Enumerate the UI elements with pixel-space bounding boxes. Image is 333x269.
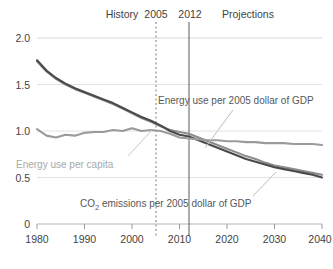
y-tick-0: 0 bbox=[24, 218, 30, 230]
x-tick-2040: 2040 bbox=[308, 233, 332, 245]
co2-suffix: emissions per 2005 dollar of GDP bbox=[99, 198, 252, 209]
chart-container: History 2005 2012 Projections 2.0 1.5 1.… bbox=[0, 0, 333, 269]
line-chart: History 2005 2012 Projections 2.0 1.5 1.… bbox=[0, 0, 333, 269]
marker-2005-label: 2005 bbox=[144, 8, 168, 20]
x-tick-2030: 2030 bbox=[263, 233, 287, 245]
y-tick-0-5: 0.5 bbox=[15, 172, 30, 184]
y-tick-2-0: 2.0 bbox=[15, 32, 30, 44]
x-axis-ticks bbox=[37, 224, 322, 229]
x-tick-2010: 2010 bbox=[168, 233, 192, 245]
x-tick-2020: 2020 bbox=[215, 233, 239, 245]
co2-prefix: CO bbox=[80, 198, 95, 209]
projections-label: Projections bbox=[222, 8, 274, 20]
marker-2012-label: 2012 bbox=[178, 8, 202, 20]
annotation-energy-per-capita: Energy use per capita bbox=[16, 159, 114, 170]
y-tick-1-5: 1.5 bbox=[15, 79, 30, 91]
history-label: History bbox=[106, 8, 139, 20]
x-tick-1990: 1990 bbox=[73, 233, 97, 245]
y-tick-1-0: 1.0 bbox=[15, 125, 30, 137]
x-tick-1980: 1980 bbox=[25, 233, 49, 245]
annotation-co2-per-gdp: CO2 emissions per 2005 dollar of GDP bbox=[80, 198, 252, 212]
series-line-energy-per-gdp bbox=[37, 61, 322, 174]
leader-lines bbox=[128, 110, 276, 196]
x-tick-2000: 2000 bbox=[120, 233, 144, 245]
annotation-energy-per-gdp: Energy use per 2005 dollar of GDP bbox=[158, 95, 314, 106]
